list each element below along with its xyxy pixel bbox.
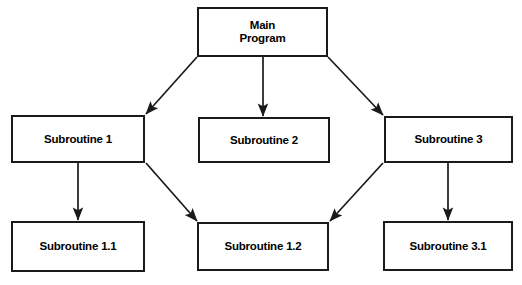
node-label-subroutine-1-1: Subroutine 1.1: [39, 240, 116, 253]
arrow-main-to-sub3: [328, 57, 383, 115]
node-label-subroutine-1: Subroutine 1: [44, 133, 112, 146]
node-subroutine-3[interactable]: Subroutine 3: [384, 116, 513, 163]
flowchart-diagram: Main Program Subroutine 1 Subroutine 2 S…: [0, 0, 522, 285]
node-subroutine-3-1[interactable]: Subroutine 3.1: [383, 221, 513, 271]
node-label-main-program: Main Program: [240, 19, 286, 45]
arrow-sub3-to-sub12: [330, 163, 383, 221]
node-label-subroutine-1-2: Subroutine 1.2: [224, 240, 301, 253]
node-subroutine-2[interactable]: Subroutine 2: [198, 117, 330, 163]
node-subroutine-1-2[interactable]: Subroutine 1.2: [197, 222, 329, 271]
node-label-subroutine-3: Subroutine 3: [415, 133, 483, 146]
node-subroutine-1[interactable]: Subroutine 1: [11, 115, 145, 163]
arrow-main-to-sub1: [146, 57, 197, 114]
node-subroutine-1-1[interactable]: Subroutine 1.1: [11, 221, 145, 272]
node-label-subroutine-2: Subroutine 2: [230, 134, 298, 147]
node-label-subroutine-3-1: Subroutine 3.1: [409, 240, 486, 253]
node-main-program[interactable]: Main Program: [197, 7, 328, 57]
arrow-sub1-to-sub12: [146, 163, 197, 221]
